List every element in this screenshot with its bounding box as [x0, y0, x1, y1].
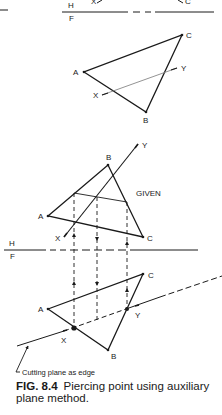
given-a-label: A: [38, 212, 44, 221]
projection-lines: [74, 193, 127, 328]
top-c-label: C: [185, 0, 191, 6]
cutting-plane-edge: [17, 276, 222, 346]
upper-x-label: X: [93, 91, 99, 100]
lower-c-label: C: [148, 271, 154, 280]
upper-c-label: C: [186, 31, 192, 40]
given-y-label: Y: [142, 141, 148, 150]
given-c-label: C: [147, 234, 153, 243]
figure-number: FIG. 8.4: [16, 380, 58, 392]
piercing-point: [71, 325, 76, 330]
leader-text: Cutting plane as edge: [22, 368, 95, 377]
upper-b-label: B: [143, 116, 148, 125]
given-x-label: X: [55, 234, 61, 243]
top-f-label: F: [69, 14, 74, 23]
lower-y-label: Y: [135, 311, 141, 320]
top-x-label: X: [91, 0, 97, 6]
upper-a-label: A: [73, 68, 79, 77]
lower-a-label: A: [38, 305, 44, 314]
lower-x-label: X: [61, 336, 67, 345]
intersection-point-y: [125, 307, 129, 311]
given-triangle: [47, 164, 145, 239]
upper-line-xy: [102, 68, 177, 95]
upper-y-label: Y: [181, 64, 187, 73]
fold-f-label: F: [10, 252, 15, 261]
fold-h-label: H: [9, 239, 15, 248]
top-fold-line: [0, 0, 214, 12]
diagram-canvas: H F X C A B C X Y GIVEN A B C X Y: [0, 0, 222, 415]
projection-arrows: [72, 233, 129, 292]
given-b-label: B: [106, 153, 111, 162]
given-title: GIVEN: [136, 189, 161, 198]
upper-triangle: [83, 34, 184, 114]
top-h-label: H: [68, 1, 74, 10]
figure-caption: FIG. 8.4Piercing point using auxiliary p…: [16, 380, 216, 404]
lower-b-label: B: [111, 352, 116, 361]
